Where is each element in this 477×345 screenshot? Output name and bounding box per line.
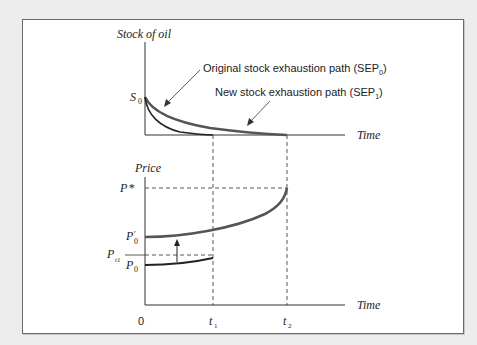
svg-text:P*: P* (119, 181, 134, 195)
bottom-x-axis-label: Time (357, 298, 381, 312)
svg-text:0: 0 (134, 237, 138, 246)
p0-prime-label: P′ 0 (125, 229, 138, 246)
pt1-label: P t1 (106, 247, 120, 264)
svg-text:1: 1 (214, 322, 218, 330)
svg-text:P: P (125, 258, 134, 272)
origin-label: 0 (138, 315, 144, 327)
svg-text:Original stock exhaustion path: Original stock exhaustion path (SEP0) (203, 62, 387, 76)
sep1-leader-line (250, 101, 270, 122)
p0-label: P 0 (125, 258, 138, 274)
svg-text:S: S (130, 90, 136, 104)
top-y-axis-label: Stock of oil (117, 27, 172, 41)
t2-label: t 2 (283, 314, 292, 330)
svg-text:P: P (106, 247, 115, 261)
sep0-annotation: Original stock exhaustion path (SEP0) (164, 62, 387, 107)
arrow-up-icon (174, 239, 180, 246)
p-star-label: P* (119, 181, 134, 195)
diagram-canvas: Stock of oil Time S 0 Original stock exh… (0, 0, 477, 345)
original-price-path (145, 258, 213, 265)
svg-text:2: 2 (288, 322, 292, 330)
svg-text:New stock exhaustion path (SEP: New stock exhaustion path (SEP1) (215, 86, 383, 100)
svg-text:t1: t1 (115, 256, 120, 264)
bottom-panel: Price Time P* P′ 0 P t1 P 0 (106, 161, 381, 330)
svg-text:0: 0 (134, 265, 138, 274)
sep1-annotation: New stock exhaustion path (SEP1) (215, 86, 383, 126)
s0-tick-label: S 0 (130, 90, 142, 106)
t1-label: t 1 (209, 314, 218, 330)
new-price-path (145, 188, 287, 237)
svg-text:t: t (209, 314, 213, 328)
sep1-curve (145, 97, 213, 135)
bottom-y-axis-label: Price (134, 161, 162, 175)
svg-text:t: t (283, 314, 287, 328)
top-panel: Stock of oil Time S 0 Original stock exh… (117, 27, 387, 142)
sep0-leader-line (167, 70, 200, 103)
top-x-axis-label: Time (357, 128, 381, 142)
svg-text:0: 0 (138, 97, 142, 106)
